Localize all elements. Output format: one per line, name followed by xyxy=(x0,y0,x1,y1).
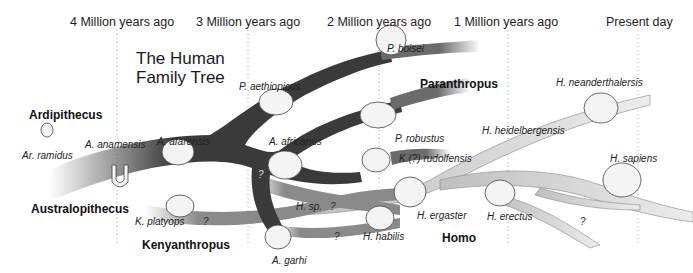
timeline-label-present: Present day xyxy=(606,15,673,29)
species-h-sp: H. sp. xyxy=(296,201,322,212)
diagram-title-line1: The Human xyxy=(136,49,225,68)
skull-icon xyxy=(366,206,394,230)
species-a-anamensis: A. anamensis xyxy=(84,139,146,150)
unknown-marker: ? xyxy=(330,201,336,212)
skull-icon xyxy=(268,151,302,179)
timeline-label-4mya: 4 Million years ago xyxy=(70,15,174,29)
species-h-sapiens: H. sapiens xyxy=(610,153,657,164)
skull-icon xyxy=(360,102,396,128)
species-h-erectus: H. erectus xyxy=(487,211,533,222)
species-p-boisei: P. boisei xyxy=(387,43,425,54)
skull-icon xyxy=(259,89,293,115)
species-h-habilis: H. habilis xyxy=(363,231,404,242)
unknown-marker: ? xyxy=(334,231,340,242)
genus-australopithecus: Australopithecus xyxy=(31,202,129,216)
timeline-label-1mya: 1 Million years ago xyxy=(454,15,558,29)
unknown-marker: ? xyxy=(203,216,209,227)
genus-kenyanthropus: Kenyanthropus xyxy=(142,238,230,252)
timeline-label-2mya: 2 Million years ago xyxy=(327,15,431,29)
timeline-label-3mya: 3 Million years ago xyxy=(196,15,300,29)
skull-icon xyxy=(166,195,194,217)
species-p-aethiopicus: P. aethiopicus xyxy=(239,81,301,92)
skull-icon xyxy=(41,123,53,137)
species-h-neanderthalensis: H. neanderthalersis xyxy=(556,77,643,88)
unknown-marker: ? xyxy=(258,169,264,180)
human-family-tree-diagram: 4 Million years ago 3 Million years ago … xyxy=(0,0,693,273)
skull-icon xyxy=(265,225,291,249)
genus-homo: Homo xyxy=(442,231,476,245)
genus-paranthropus: Paranthropus xyxy=(420,77,498,91)
diagram-title-line2: Family Tree xyxy=(136,68,225,87)
species-a-africanus: A. africanus xyxy=(268,136,322,147)
skull-icon xyxy=(362,148,390,172)
species-a-garhi: A. garhi xyxy=(271,255,307,266)
unknown-marker: ? xyxy=(580,216,586,227)
species-a-afarensis: A. afarensis xyxy=(156,136,210,147)
skull-icon xyxy=(485,180,515,206)
species-ar-ramidus: Ar. ramidus xyxy=(21,150,73,161)
genus-ardipithecus: Ardipithecus xyxy=(29,108,103,122)
paranthropus-branch xyxy=(380,40,480,165)
skull-icon xyxy=(394,177,426,207)
species-p-robustus: P. robustus xyxy=(395,133,444,144)
species-k-platyops: K. platyops xyxy=(135,216,184,227)
skull-icon xyxy=(584,93,618,123)
skull-icon xyxy=(603,163,641,197)
species-h-ergaster: H. ergaster xyxy=(417,210,467,221)
species-h-heidelbergensis: H. heidelbergensis xyxy=(482,125,565,136)
species-k-rudolfensis: K.(?) rudolfensis xyxy=(399,153,472,164)
